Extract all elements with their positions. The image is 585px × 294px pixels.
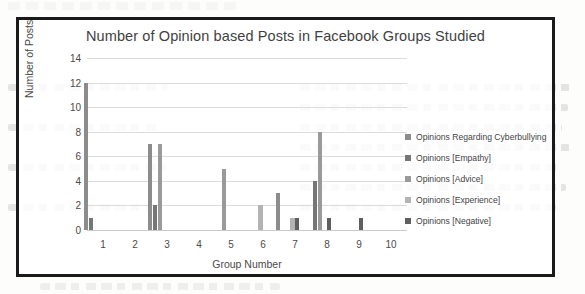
legend-swatch-icon xyxy=(405,218,411,224)
x-axis-title: Group Number xyxy=(87,258,407,270)
y-tick-label: 2 xyxy=(57,200,81,211)
bar xyxy=(158,144,162,230)
x-tick-label: 4 xyxy=(196,239,202,250)
bar xyxy=(89,218,93,230)
bars-layer xyxy=(87,58,407,230)
bar xyxy=(258,205,262,230)
bar xyxy=(359,218,363,230)
bar xyxy=(318,132,322,230)
legend-item[interactable]: Opinions Regarding Cyberbullying xyxy=(405,132,546,142)
legend-swatch-icon xyxy=(405,155,411,161)
legend-item[interactable]: Opinions [Advice] xyxy=(405,174,546,184)
chart-legend: Opinions Regarding CyberbullyingOpinions… xyxy=(405,132,546,237)
x-axis-line xyxy=(87,230,407,231)
bar xyxy=(153,205,157,230)
y-tick-label: 14 xyxy=(57,53,81,64)
x-tick-label: 1 xyxy=(100,239,106,250)
y-tick-label: 6 xyxy=(57,151,81,162)
legend-item[interactable]: Opinions [Empathy] xyxy=(405,153,546,163)
chart-frame: Number of Opinion based Posts in Faceboo… xyxy=(16,17,555,277)
bar xyxy=(327,218,331,230)
x-tick-label: 7 xyxy=(292,239,298,250)
legend-item[interactable]: Opinions [Experience] xyxy=(405,195,546,205)
legend-swatch-icon xyxy=(405,197,411,203)
x-tick-label: 3 xyxy=(164,239,170,250)
x-tick-label: 8 xyxy=(324,239,330,250)
x-tick-label: 9 xyxy=(356,239,362,250)
y-axis-title: Number of Posts xyxy=(23,20,35,98)
y-tick-label: 10 xyxy=(57,102,81,113)
bar xyxy=(290,218,294,230)
x-tick-label: 2 xyxy=(132,239,138,250)
bar xyxy=(222,169,226,230)
legend-swatch-icon xyxy=(405,134,411,140)
legend-label: Opinions [Negative] xyxy=(416,216,491,226)
x-tick-label: 10 xyxy=(385,239,396,250)
bar xyxy=(295,218,299,230)
legend-label: Opinions [Empathy] xyxy=(416,153,491,163)
y-tick-label: 12 xyxy=(57,77,81,88)
legend-label: Opinions [Advice] xyxy=(416,174,483,184)
legend-label: Opinions [Experience] xyxy=(416,195,500,205)
bar xyxy=(84,83,88,230)
legend-swatch-icon xyxy=(405,176,411,182)
bar xyxy=(313,181,317,230)
x-tick-label: 6 xyxy=(260,239,266,250)
y-tick-label: 0 xyxy=(57,225,81,236)
legend-item[interactable]: Opinions [Negative] xyxy=(405,216,546,226)
bar xyxy=(148,144,152,230)
y-tick-label: 4 xyxy=(57,175,81,186)
bar xyxy=(276,193,280,230)
x-tick-label: 5 xyxy=(228,239,234,250)
legend-label: Opinions Regarding Cyberbullying xyxy=(416,132,546,142)
y-tick-label: 8 xyxy=(57,126,81,137)
